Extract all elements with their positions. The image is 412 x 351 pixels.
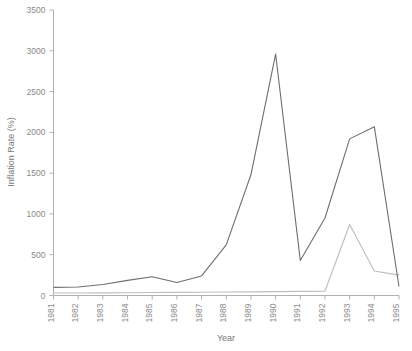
- series-line-secondary: [54, 225, 400, 294]
- x-tick-label: 1983: [95, 303, 105, 322]
- y-tick-label: 500: [31, 250, 45, 260]
- y-tick-label: 2000: [27, 127, 46, 137]
- series-line-main: [54, 54, 400, 287]
- x-tick-label: 1984: [120, 303, 130, 322]
- x-tick-label: 1994: [366, 303, 376, 322]
- y-tick-label: 2500: [27, 87, 46, 97]
- x-tick-label: 1985: [144, 303, 154, 322]
- x-tick-label: 1987: [194, 303, 204, 322]
- series-layer: [54, 54, 400, 293]
- y-tick-label: 3500: [27, 5, 46, 15]
- x-tick-label: 1990: [268, 303, 278, 322]
- y-tick-label: 0: [41, 291, 46, 301]
- y-tick-label: 1500: [27, 168, 46, 178]
- x-tick-label: 1981: [46, 303, 56, 322]
- x-axis-ticks: 1981198219831984198519861987198819891990…: [46, 296, 402, 323]
- chart-container: 0500100015002000250030003500 19811982198…: [0, 0, 412, 351]
- x-tick-label: 1989: [243, 303, 253, 322]
- x-tick-label: 1991: [292, 303, 302, 322]
- x-axis-title: Year: [217, 333, 235, 343]
- x-tick-label: 1988: [218, 303, 228, 322]
- y-axis-ticks: 0500100015002000250030003500: [27, 5, 54, 301]
- x-tick-label: 1993: [342, 303, 352, 322]
- x-tick-label: 1992: [317, 303, 327, 322]
- x-tick-label: 1995: [391, 303, 401, 322]
- y-tick-label: 3000: [27, 46, 46, 56]
- line-chart: 0500100015002000250030003500 19811982198…: [0, 0, 412, 351]
- y-axis-title: Inflation Rate (%): [6, 117, 16, 187]
- x-tick-label: 1986: [169, 303, 179, 322]
- x-tick-label: 1982: [70, 303, 80, 322]
- y-tick-label: 1000: [27, 209, 46, 219]
